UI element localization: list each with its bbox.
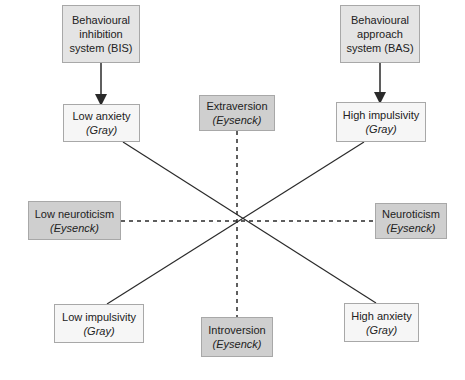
low-impulsivity-box: Low impulsivity (Gray) [54,304,144,343]
low-neuroticism-source: (Eysenck) [50,221,99,235]
bis-label-line1: Behavioural [72,13,130,27]
neuroticism-source: (Eysenck) [387,221,436,235]
introversion-source: (Eysenck) [213,337,262,351]
bas-label-line3: system (BAS) [346,41,413,55]
bas-label-line1: Behavioural [351,13,409,27]
high-impulsivity-label: High impulsivity [343,108,419,122]
high-anxiety-label: High anxiety [351,309,412,323]
high-impulsivity-box: High impulsivity (Gray) [336,102,426,142]
neuroticism-label: Neuroticism [382,207,440,221]
low-impulsivity-source: (Gray) [83,324,114,338]
high-anxiety-box: High anxiety (Gray) [344,303,419,342]
bis-box: Behavioural inhibition system (BIS) [62,5,140,63]
impulsivity-axis-line [107,142,364,304]
introversion-box: Introversion (Eysenck) [201,317,273,357]
extraversion-box: Extraversion (Eysenck) [199,95,275,131]
bas-label-line2: approach [357,27,403,41]
bis-label-line3: system (BIS) [70,41,133,55]
high-impulsivity-source: (Gray) [365,122,396,136]
high-anxiety-source: (Gray) [366,323,397,337]
introversion-label: Introversion [208,323,265,337]
extraversion-source: (Eysenck) [213,113,262,127]
neuroticism-box: Neuroticism (Eysenck) [375,203,447,239]
low-anxiety-box: Low anxiety (Gray) [63,104,140,142]
low-neuroticism-box: Low neuroticism (Eysenck) [28,201,121,240]
low-anxiety-label: Low anxiety [72,109,130,123]
extraversion-label: Extraversion [206,99,267,113]
low-anxiety-source: (Gray) [86,123,117,137]
low-neuroticism-label: Low neuroticism [35,207,114,221]
bas-box: Behavioural approach system (BAS) [340,5,420,63]
anxiety-axis-line [123,142,376,303]
low-impulsivity-label: Low impulsivity [62,310,136,324]
bis-label-line2: inhibition [79,27,122,41]
